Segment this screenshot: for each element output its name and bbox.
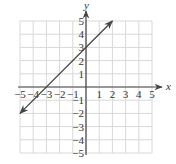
- y-tick-label: 4: [79, 28, 85, 40]
- y-tick-label: 5: [79, 15, 85, 27]
- x-tick-label: 4: [136, 88, 142, 100]
- x-tick-label: −3: [41, 88, 53, 100]
- y-tick-label: −1: [72, 94, 84, 106]
- y-tick-label: −3: [72, 121, 84, 133]
- x-tick-label: 2: [110, 88, 116, 100]
- y-tick-label: −5: [72, 147, 84, 159]
- x-tick-label: −4: [27, 88, 39, 100]
- x-axis-label: x: [165, 80, 171, 92]
- y-tick-label: −2: [72, 107, 84, 119]
- y-tick-label: 1: [79, 68, 85, 80]
- coordinate-plane: xy−5−4−3−2−11234554321−1−2−3−4−5: [0, 0, 176, 164]
- y-tick-label: 2: [79, 55, 85, 67]
- x-tick-label: 3: [123, 88, 129, 100]
- y-axis-label: y: [83, 0, 89, 11]
- y-tick-label: −4: [72, 134, 84, 146]
- x-tick-label: 1: [96, 88, 102, 100]
- x-tick-label: −2: [54, 88, 66, 100]
- x-tick-label: −5: [14, 88, 26, 100]
- x-tick-label: 5: [149, 88, 155, 100]
